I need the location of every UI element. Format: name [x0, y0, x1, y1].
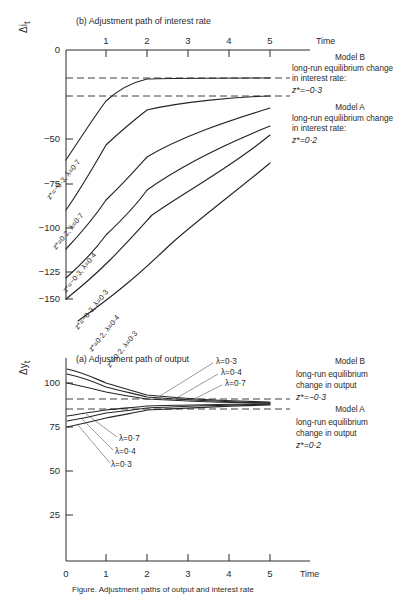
panel-b-ytick-125: −125: [39, 266, 60, 277]
panel-b-xtick-5: 5: [267, 35, 272, 46]
panel-b-curve-z02-lam-04: [66, 135, 270, 299]
panel-b-model-a-line2: in interest rate:: [292, 124, 346, 133]
panel-a-model-b-heading: Model B: [335, 357, 366, 366]
panel-a-xtick-4: 4: [226, 568, 231, 579]
panel-b-ytick-150: −150: [39, 293, 60, 304]
panel-a-model-b-line2: change in output: [296, 381, 357, 390]
panel-b-curve-labels: z*=−0·3, λ=0·7 z*=0·2, λ=0·7 z*=−0·3, λ=…: [45, 158, 140, 370]
panel-a-model-a-heading: Model A: [335, 405, 365, 414]
panel-b-model-b-value: z*=−0·3: [291, 85, 322, 95]
panel-a-model-b-value: z*=−0·3: [295, 392, 326, 402]
panel-a-upper-leaders: [160, 363, 222, 401]
svg-text:Δit: Δit: [18, 21, 32, 33]
panel-a-lower-leaders: [78, 414, 117, 463]
panel-a-x-ticks: 0 1 2 3 4 5 Time: [63, 554, 319, 579]
panel-a-lower-label-lam04: λ=0·4: [115, 447, 136, 456]
panel-a-ytick-100: 100: [44, 377, 60, 388]
panel-a-lower-label-lam03: λ=0·3: [111, 460, 132, 469]
panel-b-model-a-value: z*=0·2: [291, 135, 317, 145]
panel-a-xtick-2: 2: [144, 568, 149, 579]
panel-b-annotation-model-b: Model B long-run equilibrium change in i…: [291, 53, 393, 95]
panel-b-ytick-50: −50: [44, 133, 60, 144]
panel-a-y-ticks: 100 75 50 25: [44, 377, 73, 520]
panel-a-model-a-value: z*=0·2: [295, 440, 321, 450]
svg-text:Δyt: Δyt: [18, 360, 32, 375]
panel-b-y-axis-label: Δit: [18, 21, 32, 33]
panel-b-xtick-1: 1: [103, 35, 108, 46]
panel-b-curve-z-03-lam-04: [66, 108, 270, 249]
panel-b-curve-z-03-lam-07: [66, 78, 270, 160]
panel-b-curve-z02-lam-07: [66, 96, 270, 210]
panel-a-xtick-3: 3: [185, 568, 190, 579]
panel-a-group: Δyt (a) Adjustment path of output 0 1 2 …: [18, 354, 368, 579]
panel-a-upper-label-lam04: λ=0·4: [221, 368, 242, 377]
panel-b-model-b-line2: in interest rate:: [292, 74, 346, 83]
panel-b-model-b-heading: Model B: [335, 53, 366, 62]
panel-a-model-a-line2: change in output: [296, 429, 357, 438]
panel-b-x-ticks: 1 2 3 4 5: [103, 35, 272, 57]
panel-b-title: (b) Adjustment path of interest rate: [76, 16, 211, 26]
panel-b-xtick-3: 3: [185, 35, 190, 46]
panel-b-model-a-heading: Model A: [335, 103, 365, 112]
panel-a-ytick-75: 75: [49, 421, 60, 432]
panel-a-xtick-5: 5: [267, 568, 272, 579]
panel-a-title: (a) Adjustment path of output: [76, 354, 190, 364]
panel-a-upper-label-lam07: λ=0·7: [225, 379, 246, 388]
panel-a-x-axis-title: Time: [300, 569, 319, 579]
panel-a-lower-label-lam07: λ=0·7: [119, 434, 140, 443]
panel-a-ytick-25: 25: [49, 509, 60, 520]
panel-b-x-axis-title: Time: [316, 36, 335, 46]
panel-b-xtick-2: 2: [144, 35, 149, 46]
panel-b-model-a-line1: long-run equilibrium change: [292, 114, 393, 123]
panel-b-model-b-line1: long-run equilibrium change: [292, 64, 393, 73]
panel-b-group: Δit (b) Adjustment path of interest rate…: [18, 16, 393, 369]
panel-b-ytick-100: −100: [39, 222, 60, 233]
figure-container: Δit (b) Adjustment path of interest rate…: [0, 0, 418, 596]
panel-a-model-a-line1: long-run equilibrium: [296, 418, 368, 427]
panel-a-y-axis-label: Δyt: [18, 360, 32, 375]
panel-a-xtick-1: 1: [103, 568, 108, 579]
figure-caption: Figure. Adjustment paths of output and i…: [72, 585, 254, 594]
panel-a-curve-lower-lam04: [67, 404, 270, 421]
panel-a-annotation-model-a: Model A long-run equilibrium change in o…: [295, 405, 368, 450]
panel-a-ytick-50: 50: [49, 465, 60, 476]
panel-a-model-b-line1: long-run equilibrium: [296, 370, 368, 379]
panel-a-xtick-0: 0: [63, 568, 68, 579]
figure-svg: Δit (b) Adjustment path of interest rate…: [0, 0, 418, 596]
panel-a-upper-label-lam03: λ=0·3: [216, 357, 237, 366]
panel-a-annotation-model-b: Model B long-run equilibrium change in o…: [295, 357, 368, 402]
panel-b-ytick-0: 0: [55, 44, 60, 55]
panel-b-annotation-model-a: Model A long-run equilibrium change in i…: [291, 103, 393, 145]
panel-b-xtick-4: 4: [226, 35, 231, 46]
panel-a-curve-lower-lam03: [67, 405, 270, 427]
panel-b-label-5: z*=0·2, λ=0·4: [87, 313, 122, 353]
